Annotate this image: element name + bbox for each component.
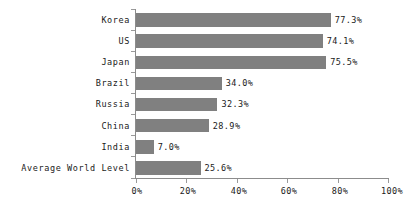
bar-value-label: 77.3% xyxy=(335,10,363,31)
bar-row-average-world-level: Average World Level 25.6% xyxy=(0,158,412,179)
x-axis-tick-label: 80% xyxy=(332,186,349,196)
bar-value-label: 34.0% xyxy=(226,73,254,94)
x-axis-tick xyxy=(388,179,389,183)
x-axis-tick xyxy=(237,179,238,183)
bar-value-label: 74.1% xyxy=(327,31,355,52)
bar-row-japan: Japan 75.5% xyxy=(0,52,412,73)
category-label: Russia xyxy=(0,94,130,115)
x-axis-tick xyxy=(338,179,339,183)
bar-brazil xyxy=(136,77,222,91)
x-axis-tick-label: 0% xyxy=(131,186,142,196)
bar-row-korea: Korea 77.3% xyxy=(0,10,412,31)
category-label: Japan xyxy=(0,52,130,73)
bar-average-world-level xyxy=(136,161,201,175)
x-axis-line xyxy=(135,178,389,179)
category-label: US xyxy=(0,31,130,52)
category-label: India xyxy=(0,137,130,158)
bar-value-label: 28.9% xyxy=(213,116,241,137)
x-axis-tick-label: 60% xyxy=(281,186,298,196)
category-label: Brazil xyxy=(0,73,130,94)
bar-value-label: 32.3% xyxy=(221,94,249,115)
bar-row-brazil: Brazil 34.0% xyxy=(0,73,412,94)
bar-value-label: 25.6% xyxy=(205,158,233,179)
bar-us xyxy=(136,34,323,48)
bar-row-russia: Russia 32.3% xyxy=(0,94,412,115)
bar-japan xyxy=(136,56,326,70)
bar-russia xyxy=(136,98,217,112)
bar-row-india: India 7.0% xyxy=(0,137,412,158)
x-axis-tick-label: 100% xyxy=(381,186,403,196)
x-axis-tick-label: 20% xyxy=(180,186,197,196)
x-axis-tick xyxy=(287,179,288,183)
x-axis-tick xyxy=(186,179,187,183)
bar-value-label: 7.0% xyxy=(158,137,180,158)
bar-value-label: 75.5% xyxy=(330,52,358,73)
x-axis-tick xyxy=(136,179,137,183)
category-label: China xyxy=(0,116,130,137)
bar-row-us: US 74.1% xyxy=(0,31,412,52)
x-axis-tick-label: 40% xyxy=(231,186,248,196)
bar-chart: Korea 77.3% US 74.1% Japan 75.5% Brazil … xyxy=(0,0,412,212)
bar-korea xyxy=(136,13,331,27)
bar-china xyxy=(136,119,209,133)
bar-row-china: China 28.9% xyxy=(0,116,412,137)
category-label: Korea xyxy=(0,10,130,31)
bar-india xyxy=(136,140,154,154)
category-label: Average World Level xyxy=(0,158,130,179)
